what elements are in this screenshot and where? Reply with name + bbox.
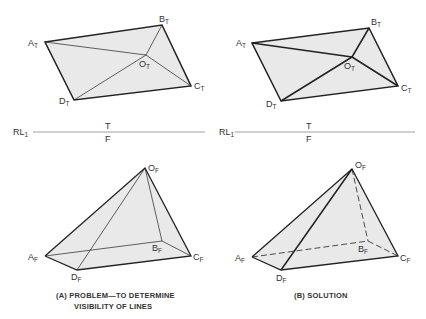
label-c-t: CT	[194, 81, 205, 92]
label-d-f-solution: DF	[276, 273, 287, 284]
panel-a-front-view: OF AF BF CF DF	[28, 163, 204, 283]
rl-t-label: T	[105, 121, 111, 131]
rl-label: RL1	[13, 127, 29, 138]
label-a-f-solution: AF	[235, 253, 245, 264]
label-c-t-solution: CT	[401, 83, 412, 94]
rl-f-label-solution: F	[306, 134, 312, 144]
label-d-t: DT	[59, 96, 70, 107]
panel-b-front-view: OF AF BF CF DF	[235, 160, 411, 284]
label-a-t-solution: AT	[236, 38, 246, 49]
caption-a-line2: VISIBILITY OF LINES	[74, 302, 152, 311]
label-a-t: AT	[28, 38, 38, 49]
label-c-f: CF	[193, 252, 204, 263]
rl-f-label: F	[105, 134, 111, 144]
label-a-f: AF	[28, 252, 38, 263]
label-b-t: BT	[159, 14, 169, 25]
diagram-canvas: AT BT OT CT DT RL1 T F OF AF BF CF DF (A…	[0, 0, 426, 319]
label-o-f-solution: OF	[355, 160, 366, 171]
label-o-f: OF	[148, 163, 159, 174]
caption-b: (B) SOLUTION	[294, 291, 348, 300]
panel-a-reference-line: RL1 T F	[13, 121, 205, 144]
label-d-t-solution: DT	[266, 99, 277, 110]
panel-b-reference-line: RL1 T F	[219, 121, 415, 144]
caption-a-line1: (A) PROBLEM—TO DETERMINE	[56, 291, 175, 300]
label-b-t-solution: BT	[371, 17, 381, 28]
panel-a-top-view: AT BT OT CT DT	[28, 14, 205, 107]
rl-label-solution: RL1	[219, 127, 235, 138]
rl-t-label-solution: T	[306, 121, 312, 131]
panel-b-top-view: AT BT OT CT DT	[236, 17, 412, 110]
label-c-f-solution: CF	[400, 253, 411, 264]
label-d-f: DF	[71, 272, 82, 283]
visibility-diagram: AT BT OT CT DT RL1 T F OF AF BF CF DF (A…	[0, 0, 426, 319]
